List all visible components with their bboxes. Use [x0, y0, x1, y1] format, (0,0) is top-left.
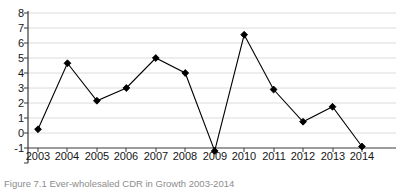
- series-markers: [35, 31, 366, 154]
- figure-caption: Figure 7.1 Ever-wholesaled CDR in Growth…: [4, 178, 396, 189]
- x-tick-2008: 2008: [168, 150, 202, 163]
- line-chart: 8 7 6 5 4 3 2 1 0 -1: [0, 0, 398, 172]
- x-axis-tick-labels: 2003 2004 2005 2006 2007 2008 2009 2010 …: [28, 150, 396, 168]
- chart-axes: [24, 11, 396, 163]
- figure-container: 8 7 6 5 4 3 2 1 0 -1: [0, 0, 398, 190]
- x-tick-2006: 2006: [109, 150, 143, 163]
- x-tick-2014: 2014: [345, 150, 379, 163]
- x-tick-2004: 2004: [50, 150, 84, 163]
- gridlines: [28, 13, 396, 133]
- data-point-2008: [182, 70, 189, 77]
- plot-svg: [0, 0, 398, 172]
- data-point-2010: [241, 31, 248, 38]
- series-line: [38, 35, 362, 151]
- x-tick-2012: 2012: [286, 150, 320, 163]
- x-tick-2010: 2010: [227, 150, 261, 163]
- data-point-2003: [35, 126, 42, 133]
- data-series: [35, 31, 366, 154]
